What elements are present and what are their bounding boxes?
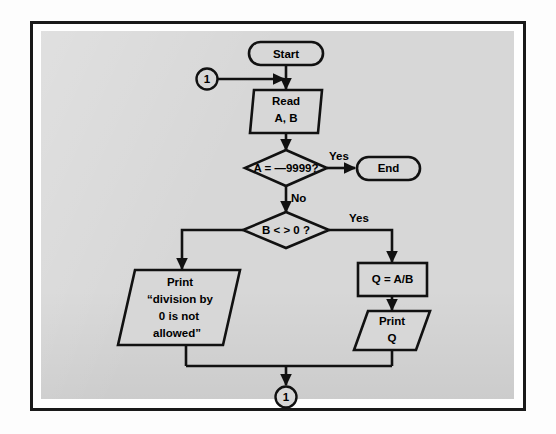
node-connector-out[interactable]: 1 <box>276 387 297 408</box>
print-q-line1: Print <box>379 315 405 327</box>
decision-sentinel-label: A = —9999? <box>253 162 318 174</box>
node-end-terminal[interactable]: End <box>357 157 420 180</box>
node-print-q-io[interactable]: Print Q <box>354 311 430 350</box>
print-error-line3: 0 is not <box>159 310 199 322</box>
node-decision-sentinel[interactable]: A = —9999? <box>245 150 327 186</box>
node-print-error-io[interactable]: Print “division by 0 is not allowed” <box>118 270 240 345</box>
connector-in-label: 1 <box>204 73 211 85</box>
end-terminal-label: End <box>378 162 400 174</box>
node-start-terminal[interactable]: Start <box>249 42 323 65</box>
node-connector-in[interactable]: 1 <box>197 69 218 90</box>
print-error-line2: “division by <box>147 293 213 305</box>
read-io-line1: Read <box>272 95 300 107</box>
edge-zero-yes-to-process <box>329 230 392 262</box>
decision-zero-label: B < > 0 ? <box>262 224 310 236</box>
start-terminal-label: Start <box>273 48 299 60</box>
flowchart-svg: Start 1 Read A, B A = —9999? Yes No End <box>0 0 556 434</box>
edge-label-sentinel-yes: Yes <box>329 150 349 162</box>
edge-label-zero-yes: Yes <box>349 212 369 224</box>
node-read-io[interactable]: Read A, B <box>250 90 322 133</box>
edge-label-sentinel-no: No <box>291 192 306 204</box>
connector-out-label: 1 <box>283 391 290 403</box>
process-divide-label: Q = A/B <box>372 273 413 285</box>
node-process-divide[interactable]: Q = A/B <box>358 263 427 296</box>
print-q-line2: Q <box>388 332 397 344</box>
edge-zero-no-to-print-error <box>182 230 243 269</box>
figure-canvas: Start 1 Read A, B A = —9999? Yes No End <box>0 0 556 434</box>
node-decision-zero[interactable]: B < > 0 ? <box>243 212 329 248</box>
print-error-line1: Print <box>167 276 193 288</box>
read-io-line2: A, B <box>275 112 298 124</box>
print-error-line4: allowed” <box>153 327 201 339</box>
